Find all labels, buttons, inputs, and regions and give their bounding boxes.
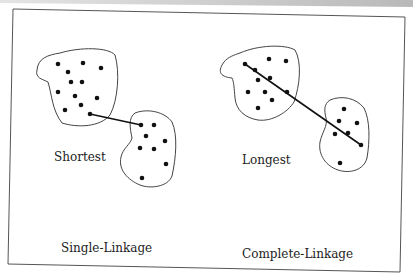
- data-point-dot: [99, 66, 104, 71]
- top-scan-band: [0, 0, 413, 7]
- panel-title: Complete-Linkage: [242, 247, 353, 261]
- longest-link-line: [245, 64, 361, 145]
- data-point-dot: [267, 57, 272, 62]
- diagram-canvas: Shortest Single-Linkage Longest Complete…: [0, 0, 413, 279]
- data-point-dot: [66, 70, 71, 75]
- data-point-dot: [63, 108, 68, 113]
- panel-single-linkage: Shortest Single-Linkage: [37, 49, 176, 255]
- data-point-dot: [256, 106, 261, 111]
- data-point-dot: [346, 131, 351, 136]
- data-point-dot: [285, 90, 290, 95]
- data-point-dot: [284, 59, 289, 64]
- data-point-dot: [243, 62, 248, 67]
- data-point-dot: [73, 94, 78, 99]
- data-point-dot: [256, 78, 261, 83]
- panel-title: Single-Linkage: [61, 241, 152, 255]
- data-point-dot: [88, 112, 93, 117]
- data-point-dot: [144, 134, 149, 139]
- data-point-dot: [270, 98, 275, 103]
- linkage-diagram: Shortest Single-Linkage Longest Complete…: [0, 0, 413, 279]
- data-point-dot: [333, 132, 338, 137]
- data-point-dot: [81, 61, 86, 66]
- cluster-outline: [37, 49, 118, 126]
- panel-complete-linkage: Longest Complete-Linkage: [220, 46, 369, 261]
- data-point-dot: [79, 103, 84, 108]
- figure-frame: [8, 9, 405, 272]
- data-point-dot: [246, 90, 251, 95]
- distance-label: Shortest: [54, 150, 106, 164]
- data-point-dot: [253, 68, 258, 73]
- data-point-dot: [359, 143, 364, 148]
- data-point-dot: [69, 80, 74, 85]
- data-point-dot: [138, 146, 143, 151]
- distance-label: Longest: [242, 153, 291, 167]
- data-point-dot: [95, 96, 100, 101]
- data-point-dot: [152, 147, 157, 152]
- data-point-dot: [152, 123, 157, 128]
- data-point-dot: [56, 62, 61, 67]
- data-points: [243, 57, 364, 166]
- data-point-dot: [139, 123, 144, 128]
- data-point-dot: [80, 80, 85, 85]
- data-point-dot: [355, 121, 360, 126]
- data-point-dot: [263, 90, 268, 95]
- data-point-dot: [140, 176, 145, 181]
- data-point-dot: [164, 162, 169, 167]
- data-point-dot: [163, 139, 168, 144]
- data-point-dot: [56, 90, 61, 95]
- data-point-dot: [338, 161, 343, 166]
- data-point-dot: [268, 76, 273, 81]
- data-point-dot: [342, 107, 347, 112]
- data-point-dot: [337, 119, 342, 124]
